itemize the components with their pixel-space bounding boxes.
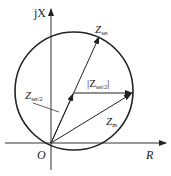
zset-label: Zset bbox=[95, 23, 108, 36]
horizontal-axis-label: R bbox=[145, 148, 154, 162]
zset-half-label: Zset/2 bbox=[25, 89, 42, 102]
zset-half-vector bbox=[51, 94, 73, 143]
zset-half-leader bbox=[33, 103, 59, 112]
radius-label: |Zset/2| bbox=[87, 77, 109, 90]
zm-vector bbox=[51, 94, 131, 143]
impedance-circle-diagram: jX R O Zset |Zset/2| Zset/2 Zm bbox=[0, 0, 171, 176]
vertical-axis-label-j: jX bbox=[33, 6, 46, 20]
origin-label: O bbox=[37, 148, 46, 162]
zm-label: Zm bbox=[106, 115, 117, 128]
